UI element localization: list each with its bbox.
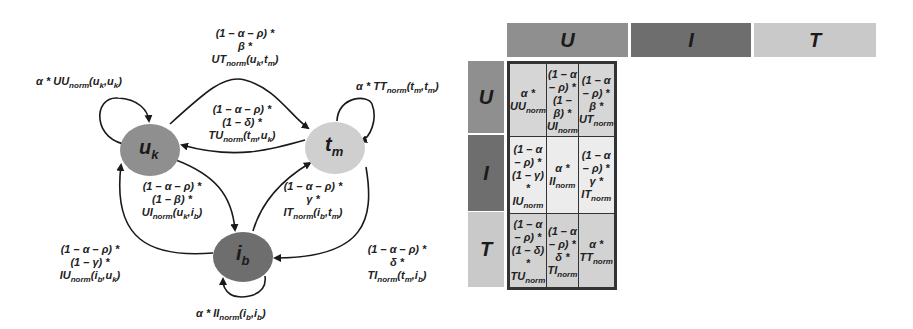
label-ti: (1 – α – ρ) * δ * TInorm(tm,ib) [352,243,442,282]
cell-sub: norm [591,194,611,203]
label-line: UInorm(uk,ib) [127,206,217,219]
label-text: ,u [104,75,114,87]
label-line: (1 – α – ρ) * [197,103,287,116]
cell-sub: norm [525,276,545,285]
cell-sub: norm [594,119,614,128]
matrix-row-I: (1 – α – ρ) *(1 – γ) * IUnorm α * IInorm… [510,137,615,214]
cell-text: (1 – α – ρ) * [582,149,611,174]
label-text: ) [118,75,122,87]
label-text: ) [339,206,343,218]
label-sub: norm [153,212,173,221]
label-sub: norm [293,212,313,221]
cell-sub: norm [558,126,578,135]
label-text: (t [407,80,414,92]
cell-text: (1 – α – ρ) * [548,225,577,250]
label-tt-self: α * TTnorm(tm,tm) [356,80,439,93]
cell-TU: (1 – α – ρ) *(1 – δ) * TUnorm [510,214,547,288]
label-text: α * UU [36,75,69,87]
label-text: ,t [261,53,268,65]
label-sub: m [250,135,257,144]
label-sub: norm [71,275,91,284]
transition-graph: uk tm ib α * UUnorm(uk,uk) (1 – α – ρ) *… [0,0,460,329]
label-line: (1 – γ) * [45,256,135,269]
label-it: (1 – α – ρ) * γ * ITnorm(ib,tm) [268,180,358,219]
label-text: ,t [421,80,428,92]
node-tm-label: tm [325,133,343,156]
label-line: (1 – α – ρ) * [127,180,217,193]
label-line: (1 – β) * [127,193,217,206]
cell-II: α * IInorm [546,137,578,214]
cell-sub: norm [526,106,546,115]
col-header-I: I [631,23,751,57]
label-sub: m [405,275,412,284]
label-sub: m [332,212,339,221]
row-header-I: I [468,135,504,211]
cell-text: (1 – α – ρ) * [514,143,543,168]
label-text: ) [272,129,276,141]
row-header-T: T [468,212,504,287]
matrix-grid: α * UUnorm (1 – α – ρ) *(1 – β) * UInorm… [507,61,617,290]
label-ut: (1 – α – ρ) * β * UTnorm(uk,tm) [200,27,290,66]
label-line: TUnorm(tm,uk) [197,129,287,142]
cell-text: (1 – α – ρ) * [514,218,543,243]
label-sub: norm [223,135,243,144]
label-text: (u [173,206,183,218]
label-text: TI [368,269,378,281]
label-text: (u [89,75,99,87]
label-text: (t [397,269,404,281]
node-uk-label: uk [139,136,158,159]
node-uk-base: u [139,136,151,158]
label-text: ) [423,269,427,281]
label-uu-self: α * UUnorm(uk,uk) [36,75,122,88]
cell-TT: α * TTnorm [578,214,614,288]
label-sub: norm [377,275,397,284]
label-text: TU [208,129,223,141]
label-line: γ * [268,193,358,206]
label-text: ) [199,206,203,218]
row-header-U: U [468,61,504,133]
cell-IT: (1 – α – ρ) *γ * ITnorm [578,137,614,214]
label-text: IT [284,206,294,218]
label-line: ITnorm(ib,tm) [268,206,358,219]
label-text: (u [246,53,256,65]
label-iu: (1 – α – ρ) * (1 – γ) * IUnorm(ib,uk) [45,243,135,282]
node-tm-sub: m [332,144,344,159]
cell-IU: (1 – α – ρ) *(1 – γ) * IUnorm [510,137,547,214]
label-text: ,t [325,206,332,218]
node-ib-sub: b [242,253,250,268]
cell-sub: norm [593,257,613,266]
cell-text: (1 – α – ρ) * [548,68,577,93]
label-tu: (1 – α – ρ) * (1 – δ) * TUnorm(tm,uk) [197,103,287,142]
label-line: TInorm(tm,ib) [352,269,442,282]
label-line: (1 – α – ρ) * [45,243,135,256]
col-header-T: T [754,23,876,57]
cell-sub: norm [523,201,543,210]
label-line: IUnorm(ib,uk) [45,269,135,282]
cell-text: (1 – α – ρ) * [582,74,611,99]
cell-sub: norm [557,270,577,279]
cell-UT: (1 – α – ρ) *β * UTnorm [578,64,614,137]
label-text: ) [117,269,121,281]
label-sub: norm [69,81,89,90]
label-text: ) [435,80,439,92]
label-text: α * II [196,307,219,319]
label-text: ,u [102,269,112,281]
label-line: (1 – α – ρ) * [352,243,442,256]
cell-TI: (1 – α – ρ) *δ * TInorm [546,214,578,288]
label-text: ) [275,53,279,65]
node-uk-sub: k [151,147,158,162]
label-text: UT [211,53,226,65]
matrix-row-T: (1 – α – ρ) *(1 – δ) * TUnorm (1 – α – ρ… [510,214,615,288]
label-sub: norm [219,313,239,322]
label-line: δ * [352,256,442,269]
node-tm-base: t [325,133,332,155]
label-text: ,u [258,129,268,141]
label-line: (1 – α – ρ) * [200,27,290,40]
cell-sub: norm [555,181,575,190]
label-ii-self: α * IInorm(ib,ib) [196,307,266,320]
label-line: (1 – α – ρ) * [268,180,358,193]
node-ib-label: ib [236,242,250,265]
label-sub: norm [387,86,407,95]
cell-UU: α * UUnorm [510,64,547,137]
matrix-row-U: α * UUnorm (1 – α – ρ) *(1 – β) * UInorm… [510,64,615,137]
